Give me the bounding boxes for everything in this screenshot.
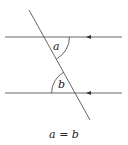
angle-b-label: b <box>58 78 65 91</box>
top-arrow-icon <box>86 35 91 39</box>
bottom-arrow-icon <box>86 91 91 95</box>
diagram-canvas: a b a = b <box>0 0 128 145</box>
caption: a = b <box>49 128 79 141</box>
parallel-lines-diagram: a b a = b <box>0 0 128 145</box>
angle-a-label: a <box>53 40 60 53</box>
transversal-line <box>29 10 90 120</box>
